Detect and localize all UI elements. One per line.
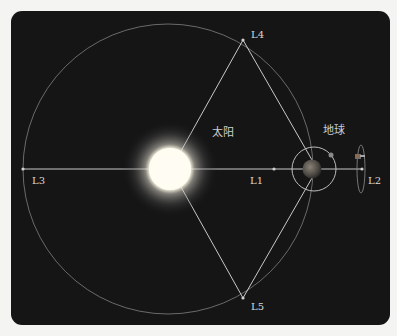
l5-label: L5: [251, 302, 264, 312]
l4-label: L4: [251, 30, 264, 40]
moon: [329, 153, 334, 158]
l4-point: [241, 38, 244, 41]
earth: [303, 160, 322, 179]
lagrange-diagram: [0, 0, 397, 336]
l1-point: [272, 167, 275, 170]
l5-point: [241, 296, 244, 299]
l2-point: [360, 167, 363, 170]
satellite-icon: [355, 154, 365, 159]
sun-label: 太阳: [212, 128, 234, 138]
earth-label: 地球: [323, 126, 345, 136]
sun: [149, 148, 191, 190]
l3-label: L3: [32, 176, 45, 186]
l3-point: [21, 167, 24, 170]
l2-label: L2: [368, 176, 381, 186]
l1-label: L1: [250, 176, 263, 186]
